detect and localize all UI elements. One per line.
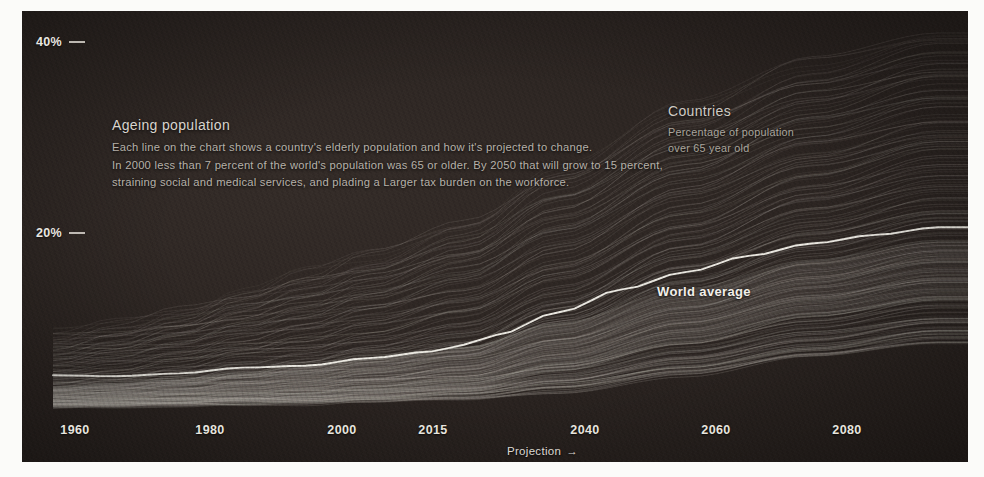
legend-subtitle-line-1: Percentage of population	[668, 124, 858, 140]
country-lines-bundle	[53, 33, 968, 408]
x-tick-1980: 1980	[195, 423, 224, 437]
x-tick-2060: 2060	[701, 423, 730, 437]
x-tick-1960: 1960	[60, 423, 89, 437]
y-tick-40-label: 40%	[36, 35, 62, 49]
legend-title: Countries	[668, 103, 858, 119]
chart-annotation-block: Ageing population Each line on the chart…	[112, 117, 672, 192]
chart-subtitle-line-1: Each line on the chart shows a country's…	[112, 139, 672, 157]
x-tick-2040: 2040	[570, 423, 599, 437]
y-tick-20-label: 20%	[36, 226, 62, 240]
y-tick-40-dash	[69, 41, 85, 43]
x-tick-2080: 2080	[832, 423, 861, 437]
y-tick-20: 20%	[36, 226, 85, 240]
x-tick-2000: 2000	[327, 423, 356, 437]
y-tick-40: 40%	[36, 35, 85, 49]
ageing-population-chart: 40% 20% 1960 1980 2000 2015 2040 2060 20…	[22, 11, 968, 462]
y-tick-20-dash	[69, 232, 85, 234]
legend-subtitle-line-2: over 65 year old	[668, 140, 858, 156]
world-average-label: World average	[657, 284, 751, 299]
chart-legend: Countries Percentage of population over …	[668, 103, 858, 156]
screenshot-page: 40% 20% 1960 1980 2000 2015 2040 2060 20…	[0, 0, 984, 477]
projection-label: Projection	[507, 445, 561, 457]
projection-annotation: Projection→	[507, 445, 578, 457]
x-tick-2015: 2015	[418, 423, 447, 437]
projection-arrow-icon: →	[566, 445, 578, 457]
chart-subtitle-line-2: In 2000 less than 7 percent of the world…	[112, 157, 672, 175]
chart-plot-area	[22, 11, 968, 462]
chart-subtitle-line-3: straining social and medical services, a…	[112, 174, 672, 192]
chart-title: Ageing population	[112, 117, 672, 133]
